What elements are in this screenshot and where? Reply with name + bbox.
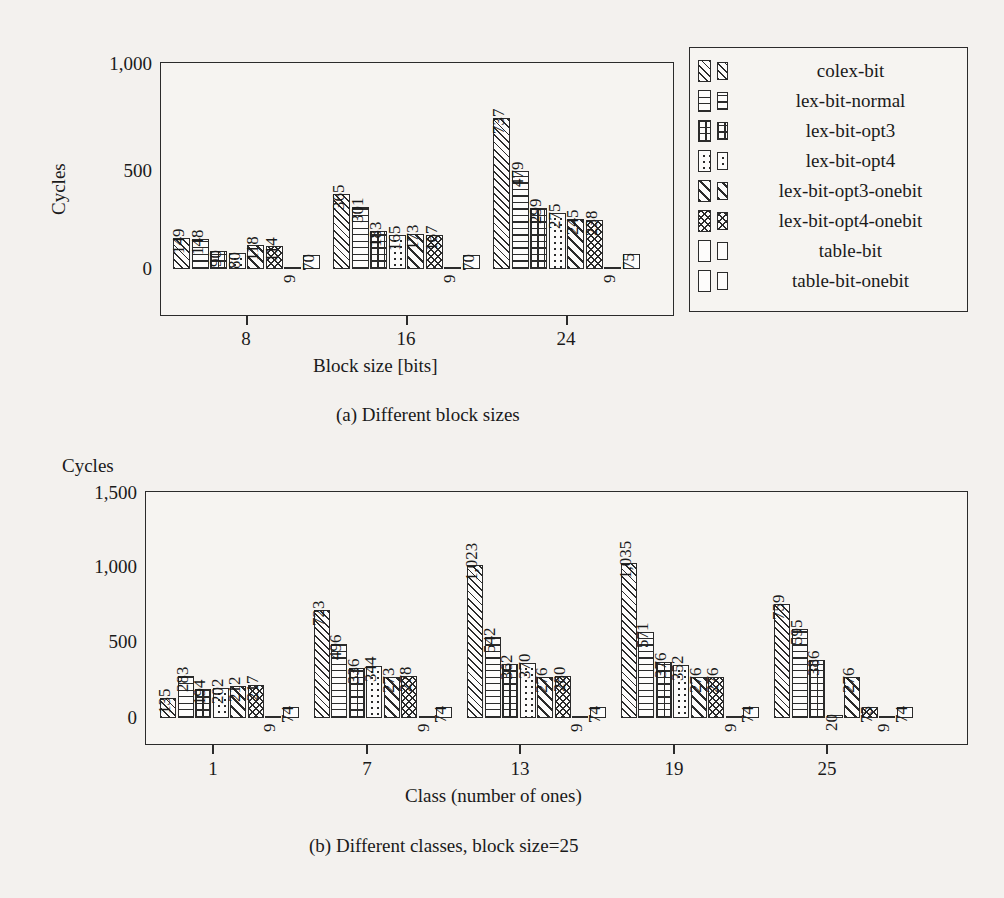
legend-item-lex-bit-opt3[interactable]: lex-bit-opt3 xyxy=(698,116,957,146)
legend-swatch-small-icon xyxy=(717,212,728,230)
bar-value-label: 118 xyxy=(243,236,263,261)
bar-value-label: 90 xyxy=(206,250,226,267)
bar-value-label: 70 xyxy=(299,254,319,271)
bar-value-label: 299 xyxy=(526,198,546,224)
bar-value-label: 9 xyxy=(280,275,300,284)
bar-value-label: 9 xyxy=(260,724,280,733)
chart-b-ytick-500: 500 xyxy=(20,631,137,653)
bar-value-label: 148 xyxy=(188,229,208,255)
legend-item-table-bit-onebit[interactable]: table-bit-onebit xyxy=(698,266,957,296)
chart-a-xtick-24: 24 xyxy=(526,328,606,350)
bar-value-label: 75 xyxy=(857,706,877,723)
legend-label: lex-bit-normal xyxy=(744,90,957,112)
bar-value-label: 9 xyxy=(414,724,434,733)
chart-a-bars: 1491489080118114970365301183165173167970… xyxy=(161,63,673,315)
legend-swatch-large-icon xyxy=(698,90,711,112)
bar-value-label: 74 xyxy=(431,706,451,723)
legend-swatch-large-icon xyxy=(698,240,711,262)
legend-swatch-group xyxy=(698,210,744,232)
bar-value-label: 74 xyxy=(892,706,912,723)
bar-value-label: 167 xyxy=(422,225,442,251)
bar-value-label: 301 xyxy=(348,198,368,224)
legend-item-lex-bit-opt4-onebit[interactable]: lex-bit-opt4-onebit xyxy=(698,206,957,236)
bar-value-label: 276 xyxy=(703,667,723,693)
bar-value-label: 149 xyxy=(169,229,189,255)
chart-b-xtick-7: 7 xyxy=(327,758,407,780)
bar-value-label: 1,035 xyxy=(616,541,636,579)
chart-b-y-axis-title: Cycles xyxy=(62,455,114,477)
legend-swatch-large-icon xyxy=(698,120,711,142)
bar-value-label: 194 xyxy=(190,679,210,705)
legend-swatch-large-icon xyxy=(698,150,711,172)
bar-value-label: 737 xyxy=(489,108,509,134)
chart-legend: colex-bitlex-bit-normallex-bit-opt3lex-b… xyxy=(689,47,968,312)
bar-value-label: 496 xyxy=(326,634,346,660)
bar-value-label: 278 xyxy=(396,667,416,693)
bar-value-label: 217 xyxy=(243,676,263,702)
bar-value-label: 70 xyxy=(459,254,479,271)
legend-item-lex-bit-opt3-onebit[interactable]: lex-bit-opt3-onebit xyxy=(698,176,957,206)
legend-item-colex-bit[interactable]: colex-bit xyxy=(698,56,957,86)
legend-swatch-group xyxy=(698,270,744,292)
figure-a: Cycles 1,000 500 0 149148908011811497036… xyxy=(0,0,1004,440)
legend-swatch-large-icon xyxy=(698,180,711,202)
legend-swatch-small-icon xyxy=(717,182,728,200)
chart-a-ytick-500: 500 xyxy=(66,160,152,182)
chart-a-xtick-mark-16 xyxy=(406,316,408,325)
legend-label: lex-bit-opt4-onebit xyxy=(744,210,957,232)
bar-value-label: 20 xyxy=(822,714,842,731)
bar-value-label: 75 xyxy=(619,253,639,270)
chart-b-xtick-mark-13 xyxy=(519,745,521,754)
bar-value-label: 759 xyxy=(769,595,789,621)
chart-b-xtick-mark-1 xyxy=(212,745,214,754)
bar-value-label: 276 xyxy=(839,667,859,693)
bar-value-label: 114 xyxy=(262,237,282,262)
chart-b-xtick-mark-25 xyxy=(826,745,828,754)
bar-value-label: 74 xyxy=(738,706,758,723)
chart-a-caption: (a) Different block sizes xyxy=(336,404,520,426)
legend-swatch-small-icon xyxy=(717,242,728,260)
bar-value-label: 275 xyxy=(545,203,565,229)
legend-label: lex-bit-opt3-onebit xyxy=(744,180,957,202)
legend-label: lex-bit-opt4 xyxy=(744,150,957,172)
legend-swatch-group xyxy=(698,90,744,112)
legend-swatch-small-icon xyxy=(717,272,728,290)
legend-item-lex-bit-opt4[interactable]: lex-bit-opt4 xyxy=(698,146,957,176)
legend-swatch-group xyxy=(698,240,744,262)
bar-value-label: 74 xyxy=(278,706,298,723)
legend-item-lex-bit-normal[interactable]: lex-bit-normal xyxy=(698,86,957,116)
bar-value-label: 9 xyxy=(567,724,587,733)
bar-value-label: 479 xyxy=(508,161,528,187)
legend-swatch-group xyxy=(698,180,744,202)
bar-value-label: 344 xyxy=(361,657,381,683)
bar-value-label: 362 xyxy=(497,654,517,680)
chart-a-ytick-1000: 1,000 xyxy=(66,53,152,75)
chart-b-xtick-25: 25 xyxy=(787,758,867,780)
chart-a-plot-area: 1491489080118114970365301183165173167970… xyxy=(160,62,674,316)
bar-value-label: 276 xyxy=(532,667,552,693)
figure-b: Cycles 1,500 1,000 500 0 135283194202212… xyxy=(0,440,1004,898)
bar-value-label: 183 xyxy=(366,222,386,248)
bar-value-label: 165 xyxy=(385,226,405,252)
legend-swatch-small-icon xyxy=(717,92,728,110)
chart-b-xtick-mark-7 xyxy=(366,745,368,754)
bar-value-label: 352 xyxy=(668,656,688,682)
chart-b-ytick-1000: 1,000 xyxy=(20,556,137,578)
bar-value-label: 212 xyxy=(225,677,245,703)
chart-a-ytick-0: 0 xyxy=(66,258,152,280)
chart-a-xtick-mark-24 xyxy=(566,316,568,325)
bar-value-label: 386 xyxy=(804,651,824,677)
bar-value-label: 723 xyxy=(309,600,329,626)
chart-b-caption: (b) Different classes, block size=25 xyxy=(309,835,578,857)
bar-value-label: 9 xyxy=(721,724,741,733)
bar-value-label: 542 xyxy=(480,627,500,653)
bar-value-label: 80 xyxy=(225,252,245,269)
chart-a-x-axis-label: Block size [bits] xyxy=(313,355,438,377)
chart-a-xtick-16: 16 xyxy=(366,328,446,350)
chart-b-xtick-13: 13 xyxy=(480,758,560,780)
chart-b-bars: 1352831942022122179747234963363442732789… xyxy=(146,492,967,744)
chart-b-ytick-1500: 1,500 xyxy=(20,482,137,504)
legend-item-table-bit[interactable]: table-bit xyxy=(698,236,957,266)
bar-value-label: 280 xyxy=(550,667,570,693)
legend-swatch-group xyxy=(698,60,744,82)
